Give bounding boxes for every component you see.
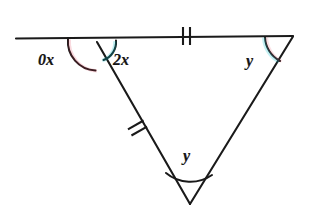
interior-left-angle-label: 2x — [113, 52, 129, 68]
interior-right-angle-label: y — [246, 53, 253, 69]
diagram-svg — [0, 0, 310, 220]
geometry-diagram-canvas: 0x 2x y y — [0, 0, 310, 220]
apex-angle-label: y — [183, 148, 190, 164]
horizontal-line — [16, 36, 293, 39]
exterior-left-angle-label: 0x — [38, 52, 54, 68]
